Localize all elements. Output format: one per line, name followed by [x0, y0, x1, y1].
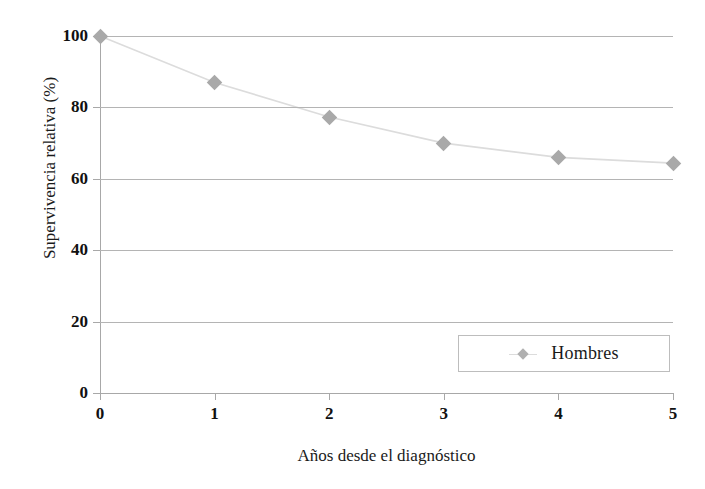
x-axis-tick-label: 0 [80, 404, 120, 424]
x-axis-line [100, 393, 673, 394]
x-axis-tick-label: 1 [195, 404, 235, 424]
diamond-marker-icon [509, 348, 537, 360]
y-axis-tick [93, 322, 100, 323]
y-axis-title: Supervivencia relativa (%) [40, 38, 60, 298]
y-axis-tick-label: 100 [28, 27, 88, 44]
y-axis-tick [93, 179, 100, 180]
gridline-horizontal [100, 179, 673, 180]
legend-entry-label: Hombres [551, 343, 618, 364]
gridline-horizontal [100, 107, 673, 108]
x-axis-tick [558, 393, 559, 400]
gridline-horizontal [100, 250, 673, 251]
x-axis-tick [215, 393, 216, 400]
survival-line-chart: Supervivencia relativa (%) 0204060801000… [0, 0, 705, 489]
y-axis-tick [93, 250, 100, 251]
y-axis-tick-label: 40 [28, 241, 88, 258]
y-axis-tick-label: 60 [28, 170, 88, 187]
x-axis-title: Años desde el diagnóstico [100, 446, 673, 466]
x-axis-tick-label: 4 [538, 404, 578, 424]
y-axis-tick-label: 20 [28, 313, 88, 330]
chart-legend[interactable]: Hombres [458, 335, 670, 372]
legend-diamond-glyph [518, 348, 529, 359]
y-axis-tick-label: 80 [28, 98, 88, 115]
x-axis-tick [329, 393, 330, 400]
x-axis-tick [100, 393, 101, 400]
x-axis-tick-label: 2 [309, 404, 349, 424]
x-axis-tick [444, 393, 445, 400]
x-axis-tick-label: 5 [653, 404, 693, 424]
x-axis-tick [673, 393, 674, 400]
y-axis-tick-label: 0 [28, 384, 88, 401]
y-axis-tick [93, 393, 100, 394]
y-axis-tick [93, 36, 100, 37]
x-axis-tick-label: 3 [424, 404, 464, 424]
gridline-horizontal [100, 322, 673, 323]
gridline-horizontal [100, 36, 673, 37]
y-axis-tick [93, 107, 100, 108]
